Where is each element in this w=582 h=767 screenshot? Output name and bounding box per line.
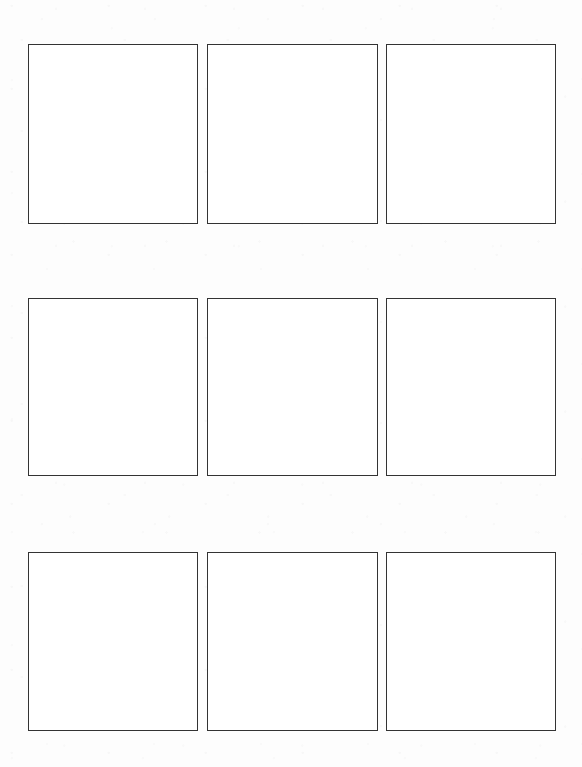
grid-cell[interactable] [386, 552, 556, 731]
grid-cell[interactable] [207, 44, 378, 224]
grid-cell[interactable] [28, 44, 198, 224]
grid-cell[interactable] [28, 298, 198, 476]
grid-cell[interactable] [386, 44, 556, 224]
grid-cell[interactable] [386, 298, 556, 476]
grid-cell[interactable] [207, 298, 378, 476]
blank-cell-grid [0, 0, 582, 767]
grid-cell[interactable] [207, 552, 378, 731]
grid-cell[interactable] [28, 552, 198, 731]
